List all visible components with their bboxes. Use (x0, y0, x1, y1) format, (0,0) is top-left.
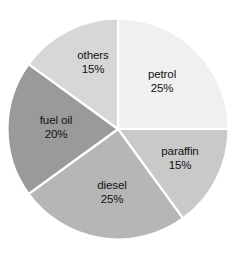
pie-chart-canvas (0, 0, 244, 253)
pie-chart: petrol25%paraffin15%diesel25%fuel oil20%… (0, 0, 244, 253)
pie-slice-group (7, 19, 228, 240)
pie-slice-petrol[interactable] (118, 19, 229, 130)
